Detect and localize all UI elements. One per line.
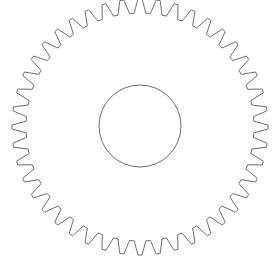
gear-outline <box>12 0 268 255</box>
gear-diagram <box>0 0 273 262</box>
center-bore-circle <box>99 85 181 167</box>
gear-drawing <box>0 0 273 262</box>
